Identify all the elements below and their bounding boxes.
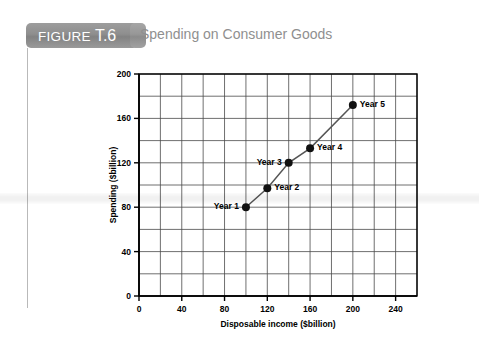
data-point-label: Year 5 [360,99,385,109]
x-axis-tick-label: 0 [137,304,142,314]
y-axis-title: Spending ($billion) [108,147,118,224]
x-axis-tick-label: 240 [389,304,403,314]
y-axis-tick-label: 40 [122,247,132,257]
x-axis-tick-label: 160 [303,304,317,314]
data-point-marker [285,159,293,167]
data-point-marker [263,184,271,192]
chart-plot: 0408012016020004080120160200240Disposabl… [0,0,479,348]
y-axis-tick-label: 0 [126,291,131,301]
y-axis-tick-label: 120 [117,158,131,168]
data-point-label: Year 2 [274,182,299,192]
y-axis-tick-label: 200 [117,69,131,79]
data-point-label: Year 1 [214,201,239,211]
x-axis-tick-label: 80 [220,304,230,314]
data-point-marker [349,101,357,109]
x-axis-tick-label: 40 [177,304,187,314]
x-axis-tick-label: 120 [260,304,274,314]
data-point-label: Year 4 [317,142,342,152]
x-axis-tick-label: 200 [346,304,360,314]
x-axis-title: Disposable income ($billion) [220,319,335,329]
y-axis-tick-label: 80 [122,202,132,212]
data-point-marker [306,144,314,152]
y-axis-tick-label: 160 [117,113,131,123]
data-point-label: Year 3 [257,157,282,167]
data-point-marker [242,203,250,211]
